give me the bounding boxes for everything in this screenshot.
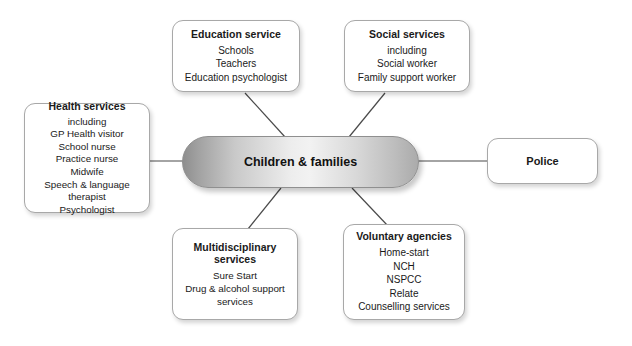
list-item: Teachers [185,57,287,71]
node-police: Police [487,138,598,184]
connector-voluntary [352,188,388,226]
list-item: NCH [358,260,450,273]
node-title: Police [526,155,558,168]
list-item: Sure Start [185,269,285,282]
node-items: Sure Start Drug & alcohol support servic… [185,269,285,308]
node-education-service: Education service Schools Teachers Educa… [172,20,300,92]
node-title: Education service [191,28,281,41]
list-item: Social worker [358,57,456,71]
list-item: Midwife [44,166,130,179]
list-item: Speech & language [44,179,130,192]
connector-social [349,93,385,137]
node-multidisciplinary-services: Multidisciplinary services Sure Start Dr… [172,228,298,320]
list-item: School nurse [44,141,130,154]
node-voluntary-agencies: Voluntary agencies Home-start NCH NSPCC … [343,224,465,320]
list-item: Drug & alcohol support [185,282,285,295]
node-title: Health services [48,100,125,113]
list-item: including [44,116,130,129]
node-items: Home-start NCH NSPCC Relate Counselling … [358,246,450,313]
list-item: Schools [185,44,287,58]
node-title: Social services [369,28,445,41]
central-node-children-families: Children & families [182,136,419,188]
list-item: Practice nurse [44,153,130,166]
connector-education [245,93,285,137]
list-item: including [358,44,456,58]
connector-multidisciplinary [248,188,281,229]
list-item: services [185,295,285,308]
node-social-services: Social services including Social worker … [344,20,470,92]
list-item: GP Health visitor [44,128,130,141]
node-items: including Social worker Family support w… [358,44,456,85]
central-node-label: Children & families [244,155,357,169]
service-network-diagram: Children & families Health services incl… [0,0,632,346]
node-items: including GP Health visitor School nurse… [44,116,130,217]
list-item: Home-start [358,246,450,259]
node-health-services: Health services including GP Health visi… [24,103,150,213]
list-item: therapist [44,191,130,204]
list-item: Education psychologist [185,71,287,85]
list-item: Psychologist [44,204,130,217]
node-title: Multidisciplinary services [194,241,277,266]
list-item: Counselling services [358,300,450,313]
list-item: Family support worker [358,71,456,85]
list-item: NSPCC [358,273,450,286]
node-items: Schools Teachers Education psychologist [185,44,287,85]
list-item: Relate [358,287,450,300]
node-title: Voluntary agencies [356,230,452,243]
